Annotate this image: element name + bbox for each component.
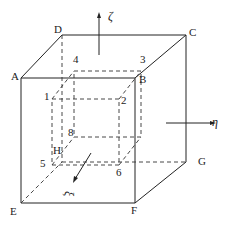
label-F: F [131,204,137,216]
label-D: D [54,23,62,35]
label-A: A [11,70,19,82]
inner-cube [52,71,141,165]
label-H: H [53,144,61,156]
label-zeta: ζ [108,9,114,23]
zeta-axis [97,12,101,55]
label-5: 5 [40,157,46,169]
xi-axis [73,153,91,183]
label-B: B [139,73,146,85]
label-3: 3 [140,53,146,65]
label-eta: η [212,115,218,129]
label-G: G [198,155,206,167]
label-1: 1 [44,90,50,102]
label-8: 8 [68,126,74,138]
eta-axis [166,121,216,125]
label-4: 4 [73,53,79,65]
label-6: 6 [116,166,122,178]
outer-cube [21,35,186,203]
cube-diagram: A B C D E F G H 1 2 3 4 5 6 8 ζ η ξ [0,0,227,226]
label-xi: ξ [62,191,76,197]
label-E: E [10,205,17,217]
label-2: 2 [121,94,127,106]
label-C: C [189,26,196,38]
